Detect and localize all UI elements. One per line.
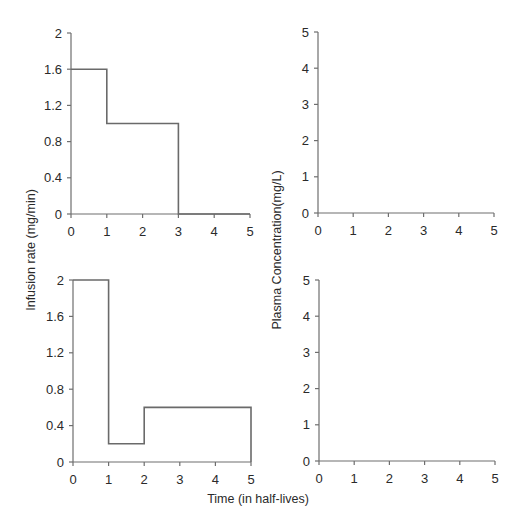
panel-infusion-rate-top: 00.40.81.21.62012345 [44,26,254,240]
panel-plasma-concentration-bottom: 012345012345 [303,273,499,487]
x-tick-label: 0 [315,471,322,486]
y-tick-label: 0 [55,207,62,222]
x-tick-label: 0 [314,223,321,238]
infusion-rate-step-line [71,69,250,214]
x-tick-label: 4 [456,471,463,486]
y-tick-label: 4 [302,61,309,76]
x-tick-label: 2 [385,223,392,238]
y-tick-label: 0 [57,455,64,470]
y-tick-label: 3 [303,345,310,360]
x-tick-label: 5 [247,472,254,487]
x-tick-label: 3 [421,471,428,486]
x-tick-label: 1 [350,223,357,238]
y-axis-title-plasma-concentration: Plasma Concentration(mg/L) [270,170,284,329]
y-tick-label: 4 [303,309,310,324]
x-axis-title-time: Time (in half-lives) [207,492,309,506]
x-tick-label: 1 [103,224,110,239]
y-tick-label: 5 [303,273,310,288]
y-tick-label: 2 [57,273,64,288]
chart-canvas: 00.40.81.21.62012345 012345012345 00.40.… [0,0,517,518]
y-tick-label: 1 [302,169,309,184]
x-tick-label: 1 [105,472,112,487]
panel-plasma-concentration-top: 012345012345 [302,25,498,239]
panel-infusion-rate-bottom: 00.40.81.21.62012345 [46,273,255,488]
y-tick-label: 1.6 [44,62,62,77]
y-tick-label: 1 [303,417,310,432]
y-axis-title-infusion-rate: Infusion rate (mg/min) [24,189,38,311]
y-tick-label: 2 [55,26,62,41]
x-tick-label: 5 [246,224,253,239]
x-tick-label: 3 [176,472,183,487]
x-tick-label: 2 [139,224,146,239]
x-tick-label: 3 [175,224,182,239]
y-tick-label: 0.8 [44,134,62,149]
y-tick-label: 0 [303,454,310,469]
y-tick-label: 0.4 [44,170,62,185]
infusion-rate-step-line [73,280,251,462]
x-tick-label: 0 [67,224,74,239]
y-tick-label: 0.8 [46,382,64,397]
y-tick-label: 1.2 [46,345,64,360]
x-tick-label: 3 [420,223,427,238]
x-tick-label: 5 [491,471,498,486]
y-tick-label: 1.2 [44,98,62,113]
y-tick-label: 2 [303,381,310,396]
x-tick-label: 2 [141,472,148,487]
y-tick-label: 0.4 [46,418,64,433]
y-tick-label: 0 [302,206,309,221]
x-tick-label: 4 [212,472,219,487]
x-tick-label: 0 [69,472,76,487]
y-tick-label: 2 [302,133,309,148]
x-tick-label: 5 [490,223,497,238]
y-tick-label: 1.6 [46,309,64,324]
y-tick-label: 5 [302,25,309,40]
x-tick-label: 1 [351,471,358,486]
x-tick-label: 4 [211,224,218,239]
y-tick-label: 3 [302,97,309,112]
x-tick-label: 2 [386,471,393,486]
x-tick-label: 4 [455,223,462,238]
